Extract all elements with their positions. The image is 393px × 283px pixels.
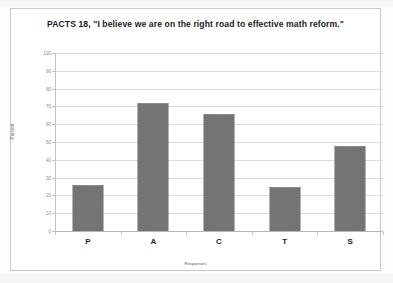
y-tick-90: 90 <box>29 68 51 73</box>
x-tick-label-p: P <box>58 237 118 246</box>
y-tick-10: 10 <box>29 211 51 216</box>
y-tick-60: 60 <box>29 122 51 127</box>
axis-baseline <box>55 231 383 232</box>
bar-slot-a <box>121 53 187 231</box>
x-tickmark <box>186 232 187 235</box>
y-tick-100: 100 <box>29 51 51 56</box>
y-tick-80: 80 <box>29 86 51 91</box>
bar-t[interactable] <box>269 187 300 232</box>
x-axis-title: Responses <box>11 261 380 266</box>
x-tickmark <box>383 232 384 235</box>
x-tickmark <box>55 232 56 235</box>
x-tickmark <box>252 232 253 235</box>
x-tick-label-a: A <box>123 237 183 246</box>
bar-s[interactable] <box>335 146 366 231</box>
x-tick-label-s: S <box>320 237 380 246</box>
y-tick-50: 50 <box>29 140 51 145</box>
bar-slot-c <box>186 53 252 231</box>
x-tick-label-t: T <box>255 237 315 246</box>
y-axis-tick-labels: 100 90 80 70 60 50 40 30 20 10 0 <box>27 53 51 231</box>
x-tickmark <box>121 232 122 235</box>
bar-slot-t <box>252 53 318 231</box>
y-tick-30: 30 <box>29 175 51 180</box>
y-tick-0: 0 <box>29 229 51 234</box>
scan-artifact <box>0 0 393 7</box>
bar-a[interactable] <box>138 103 169 231</box>
bar-p[interactable] <box>72 185 103 231</box>
bar-series <box>55 53 383 231</box>
bar-slot-p <box>55 53 121 231</box>
bar-c[interactable] <box>203 114 234 231</box>
scan-artifact <box>0 274 393 283</box>
x-tick-label-c: C <box>189 237 249 246</box>
chart-title: PACTS 18, "I believe we are on the right… <box>11 19 380 29</box>
y-tick-20: 20 <box>29 193 51 198</box>
y-tick-40: 40 <box>29 157 51 162</box>
x-tickmark <box>317 232 318 235</box>
y-axis-title: Percent <box>10 124 15 140</box>
bar-slot-s <box>317 53 383 231</box>
y-tick-70: 70 <box>29 104 51 109</box>
chart-frame: PACTS 18, "I believe we are on the right… <box>10 8 381 271</box>
